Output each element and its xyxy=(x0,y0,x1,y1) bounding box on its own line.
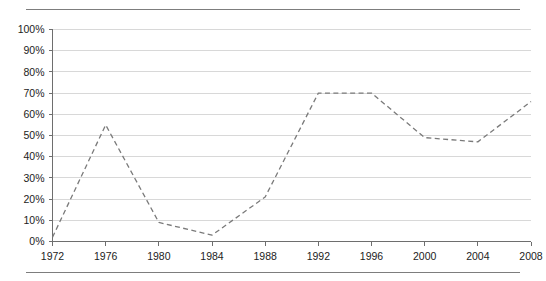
y-axis-labels-group: 0%10%20%30%40%50%60%70%80%90%100% xyxy=(18,23,45,247)
y-axis-tick-label: 90% xyxy=(23,44,44,56)
y-axis-tick-label: 20% xyxy=(23,193,44,205)
x-axis-tick-label: 2000 xyxy=(413,250,437,262)
x-axis-tick-label: 1992 xyxy=(307,250,331,262)
y-axis-tick-label: 10% xyxy=(23,214,44,226)
y-axis-tick-label: 100% xyxy=(18,23,45,35)
top-horizontal-rule xyxy=(26,9,520,10)
y-axis-tick-label: 70% xyxy=(23,87,44,99)
y-axis-tick-label: 30% xyxy=(23,172,44,184)
x-axis-labels-group: 1972197619801984198819921996200020042008 xyxy=(41,250,543,262)
top-caption-strip xyxy=(0,0,546,12)
x-axis-tick-label: 1996 xyxy=(360,250,384,262)
x-axis-tick-label: 1976 xyxy=(94,250,118,262)
x-axis-tick-label: 2004 xyxy=(466,250,490,262)
gridlines-group xyxy=(53,30,532,242)
x-axis-tick-label: 1988 xyxy=(253,250,277,262)
x-axis-tick-label: 2008 xyxy=(519,250,543,262)
chart-figure: 0%10%20%30%40%50%60%70%80%90%100% 197219… xyxy=(0,12,546,270)
y-axis-tick-label: 50% xyxy=(23,129,44,141)
y-axis-tick-label: 40% xyxy=(23,150,44,162)
bottom-horizontal-rule xyxy=(26,272,520,273)
x-tickmarks-group xyxy=(53,242,532,247)
x-axis-tick-label: 1972 xyxy=(41,250,65,262)
y-axis-tick-label: 80% xyxy=(23,66,44,78)
line-chart: 0%10%20%30%40%50%60%70%80%90%100% 197219… xyxy=(0,12,546,270)
y-axis-tick-label: 60% xyxy=(23,108,44,120)
x-axis-tick-label: 1984 xyxy=(200,250,224,262)
x-axis-tick-label: 1980 xyxy=(147,250,171,262)
y-axis-tick-label: 0% xyxy=(29,235,44,247)
